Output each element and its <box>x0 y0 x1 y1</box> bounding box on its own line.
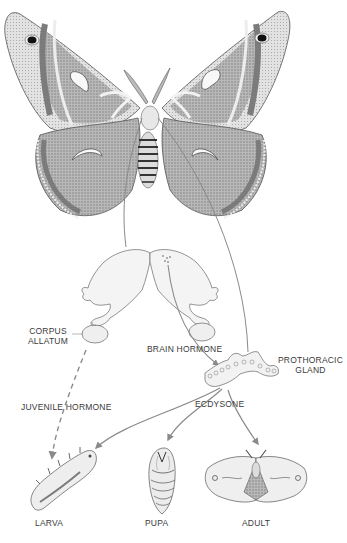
brain-hormone-label: BRAIN HORMONE <box>147 344 222 354</box>
metamorphosis-diagram <box>0 0 347 543</box>
ecdysone-label: ECDYSONE <box>195 399 244 409</box>
abdomen <box>138 132 158 188</box>
prothoracic-label-line: PROTHORACIC <box>278 355 343 365</box>
larva-label: LARVA <box>35 518 63 528</box>
larva-illustration <box>31 447 96 510</box>
adult-moth-illustration <box>5 11 290 218</box>
allatum-label-line: ALLATUM <box>28 336 68 346</box>
pupa-label: PUPA <box>145 518 168 528</box>
pupa-illustration <box>149 448 175 514</box>
corpus-allatum-label: CORPUS ALLATUM <box>28 326 68 346</box>
brain-illustration <box>82 250 218 343</box>
prothoracic-gland-illustration <box>205 352 279 387</box>
juvenile-hormone-label: JUVENILE HORMONE <box>21 402 112 412</box>
adult-label: ADULT <box>242 518 270 528</box>
small-adult-moth-illustration <box>205 450 307 502</box>
corpus-allatum-left <box>82 325 108 343</box>
antenna-right <box>152 68 170 104</box>
arrow-ecdysone-to-pupa <box>168 389 222 440</box>
gland-label-line: GLAND <box>278 365 343 375</box>
thorax <box>141 106 159 130</box>
prothoracic-gland-label: PROTHORACIC GLAND <box>278 355 343 375</box>
corpus-label-line: CORPUS <box>28 326 68 336</box>
right-hindwing <box>162 118 266 216</box>
arrow-ecdysone-to-larva <box>96 388 220 448</box>
